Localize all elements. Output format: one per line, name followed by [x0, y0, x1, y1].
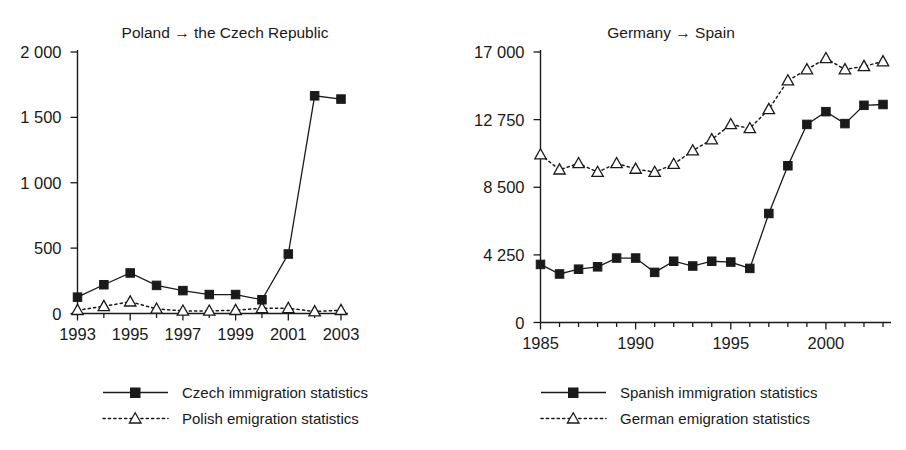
- data-point-marker: [152, 281, 161, 290]
- data-point-marker: [612, 254, 621, 263]
- legend-entry-czech-immigration[interactable]: Czech immigration statistics: [103, 384, 368, 401]
- data-point-marker: [860, 101, 869, 110]
- legend-entry-german-emigration[interactable]: German emigration statistics: [541, 410, 810, 427]
- data-point-marker: [706, 134, 717, 144]
- data-point-marker: [782, 75, 793, 85]
- data-point-marker: [801, 64, 812, 74]
- legend-left: Czech immigration statistics Polish emig…: [103, 384, 368, 427]
- series-line-spanish-immigration: [541, 105, 884, 274]
- data-point-marker: [310, 92, 319, 101]
- chart-panel-poland-czech: Poland → the Czech Republic 05001 0001 5…: [0, 0, 453, 450]
- legend-label-polish-emigration: Polish emigration statistics: [182, 410, 359, 427]
- chart-title-right: Germany → Spain: [607, 24, 735, 41]
- y-axis-tick-label: 17 000: [474, 43, 524, 61]
- data-point-marker: [573, 157, 584, 167]
- series-markers-spanish-immigration: [536, 100, 887, 278]
- data-point-marker: [258, 296, 267, 305]
- data-point-marker: [535, 149, 546, 159]
- x-axis-tick-label: 1999: [217, 325, 254, 343]
- legend-label-german-emigration: German emigration statistics: [620, 410, 810, 427]
- x-axis-tick-label: 1995: [712, 334, 749, 352]
- x-axis-tick-label: 1997: [165, 325, 202, 343]
- data-point-marker: [100, 280, 109, 289]
- x-axis-tick-label: 2001: [270, 325, 307, 343]
- y-axis-tick-labels-right: 04 2508 50012 75017 000: [474, 43, 524, 332]
- data-point-marker: [877, 56, 888, 66]
- chart-svg-right: Germany → Spain 04 2508 50012 75017 000 …: [453, 0, 906, 450]
- data-point-marker: [179, 286, 188, 295]
- data-point-marker: [205, 290, 214, 299]
- data-point-marker: [337, 95, 346, 104]
- x-axis-tick-labels-right: 1985199019952000: [522, 334, 844, 352]
- data-point-marker: [126, 269, 135, 278]
- data-point-marker: [98, 300, 109, 310]
- data-point-marker: [650, 268, 659, 277]
- data-point-marker: [125, 296, 136, 306]
- legend-entry-polish-emigration[interactable]: Polish emigration statistics: [103, 410, 359, 427]
- data-point-marker: [822, 107, 831, 116]
- data-point-marker: [631, 254, 640, 263]
- data-point-marker: [284, 250, 293, 258]
- y-axis-tick-label: 1 000: [20, 174, 61, 192]
- chart-title-left: Poland → the Czech Republic: [122, 24, 329, 41]
- data-point-marker: [763, 103, 774, 113]
- x-axis-tick-label: 1993: [59, 325, 96, 343]
- y-axis-tick-label: 8 500: [483, 178, 524, 196]
- x-axis-tick-label: 2003: [323, 325, 360, 343]
- y-axis-tick-labels-left: 05001 0001 5002 000: [20, 43, 61, 323]
- data-point-marker: [765, 209, 774, 218]
- data-point-marker: [231, 290, 240, 299]
- data-point-marker: [669, 257, 678, 266]
- data-point-marker: [708, 257, 717, 266]
- legend-swatch-filled-square: [131, 388, 141, 398]
- chart-panel-germany-spain: Germany → Spain 04 2508 50012 75017 000 …: [453, 0, 906, 450]
- legend-swatch-filled-square: [569, 388, 579, 398]
- data-point-marker: [687, 145, 698, 155]
- x-axis-tick-label: 1995: [112, 325, 149, 343]
- y-axis-tick-label: 0: [52, 305, 61, 323]
- data-point-marker: [879, 100, 888, 109]
- data-point-marker: [335, 304, 346, 314]
- data-point-marker: [592, 166, 603, 176]
- legend-entry-spanish-immigration[interactable]: Spanish immigration statistics: [541, 384, 818, 401]
- data-point-marker: [73, 293, 82, 302]
- y-axis-tick-marks-left: [71, 52, 78, 314]
- data-point-marker: [555, 270, 564, 279]
- x-axis-tick-marks-right: [541, 323, 884, 330]
- x-axis-tick-label: 1985: [522, 334, 559, 352]
- data-point-marker: [283, 302, 294, 312]
- data-point-marker: [820, 52, 831, 62]
- legend-label-czech-immigration: Czech immigration statistics: [182, 384, 368, 401]
- y-axis-tick-label: 500: [34, 239, 62, 257]
- y-axis-tick-marks-right: [534, 52, 541, 323]
- series-line-czech-immigration: [78, 96, 342, 300]
- x-axis-tick-labels-left: 199319951997199920012003: [59, 325, 359, 343]
- data-point-marker: [841, 119, 850, 128]
- data-point-marker: [72, 304, 83, 314]
- data-point-marker: [668, 158, 679, 168]
- data-point-marker: [744, 122, 755, 132]
- y-axis-tick-label: 4 250: [483, 246, 524, 264]
- data-point-marker: [727, 258, 736, 267]
- chart-svg-left: Poland → the Czech Republic 05001 0001 5…: [0, 0, 453, 450]
- y-axis-tick-label: 2 000: [20, 43, 61, 61]
- data-point-marker: [803, 120, 812, 129]
- series-markers-czech-immigration: [73, 92, 345, 304]
- data-point-marker: [746, 264, 755, 273]
- x-axis-tick-label: 2000: [808, 334, 845, 352]
- data-point-marker: [784, 162, 793, 171]
- y-axis-tick-label: 12 750: [474, 111, 524, 129]
- data-point-marker: [688, 262, 697, 271]
- data-point-marker: [536, 260, 545, 269]
- legend-right: Spanish immigration statistics German em…: [541, 384, 818, 427]
- data-point-marker: [611, 157, 622, 167]
- y-axis-tick-label: 1 500: [20, 108, 61, 126]
- data-point-marker: [725, 119, 736, 129]
- legend-label-spanish-immigration: Spanish immigration statistics: [620, 384, 818, 401]
- x-axis-tick-label: 1990: [617, 334, 654, 352]
- two-panel-line-chart-figure: Poland → the Czech Republic 05001 0001 5…: [0, 0, 906, 450]
- data-point-marker: [593, 263, 602, 272]
- data-point-marker: [204, 305, 215, 315]
- y-axis-tick-label: 0: [515, 314, 524, 332]
- series-markers-german-emigration: [535, 52, 889, 176]
